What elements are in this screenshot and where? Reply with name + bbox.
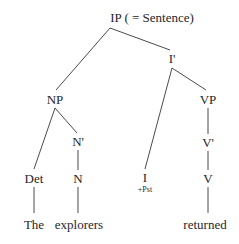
node-n: N xyxy=(73,172,82,185)
word-explorers: explorers xyxy=(55,218,103,231)
node-vp: VP xyxy=(200,93,217,106)
node-n-bar: N' xyxy=(72,135,84,148)
node-i-bar: I' xyxy=(169,52,176,65)
word-returned: returned xyxy=(183,218,226,231)
node-np: NP xyxy=(47,93,64,106)
node-ip: IP ( = Sentence) xyxy=(110,11,194,24)
node-i-feature-past: +Pst xyxy=(138,186,152,194)
node-v: V xyxy=(203,172,212,185)
node-v-bar: V' xyxy=(202,136,214,149)
word-the: The xyxy=(24,218,44,231)
syntax-tree-nodes: IP ( = Sentence) I' NP VP N' V' Det N I … xyxy=(0,0,239,244)
node-i: I xyxy=(143,171,147,184)
node-det: Det xyxy=(25,172,44,185)
